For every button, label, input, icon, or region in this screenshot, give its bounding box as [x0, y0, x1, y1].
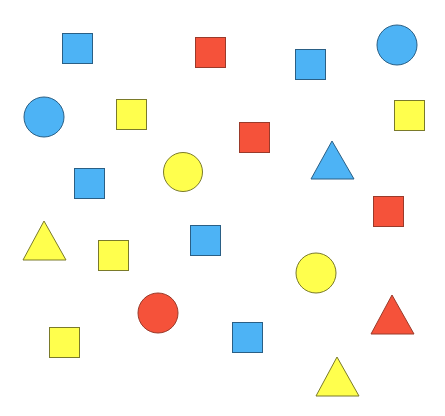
yellow-square-icon — [99, 241, 129, 271]
blue-square-icon — [75, 169, 105, 199]
blue-square-icon — [233, 323, 263, 353]
red-square-icon — [374, 197, 404, 227]
yellow-square-icon — [395, 101, 425, 131]
red-circle-icon — [138, 293, 178, 333]
yellow-square-icon — [117, 100, 147, 130]
yellow-circle-icon — [296, 253, 336, 293]
yellow-square-icon — [50, 328, 80, 358]
red-square-icon — [240, 123, 270, 153]
red-triangle-icon — [371, 295, 414, 334]
blue-square-icon — [296, 50, 326, 80]
blue-circle-icon — [377, 25, 417, 65]
blue-circle-icon — [24, 97, 64, 137]
yellow-circle-icon — [164, 153, 203, 192]
yellow-triangle-icon — [316, 357, 359, 396]
shapes-canvas — [0, 0, 445, 416]
blue-triangle-icon — [311, 141, 354, 179]
blue-square-icon — [63, 34, 93, 64]
red-square-icon — [196, 38, 226, 68]
blue-square-icon — [191, 226, 221, 256]
yellow-triangle-icon — [23, 221, 66, 260]
